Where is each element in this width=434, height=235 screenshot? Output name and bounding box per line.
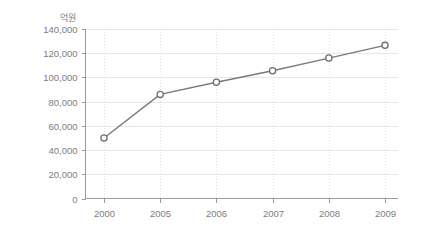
y-tick-label: 100,000 bbox=[43, 72, 77, 83]
data-point-marker bbox=[270, 68, 276, 74]
y-axis-unit-label: 억원 bbox=[60, 12, 76, 23]
x-tick-label: 2000 bbox=[94, 208, 115, 219]
data-point-marker bbox=[213, 79, 219, 85]
x-tick-label: 2006 bbox=[206, 208, 227, 219]
data-point-marker bbox=[326, 55, 332, 61]
y-tick-label: 80,000 bbox=[48, 97, 77, 108]
data-point-marker bbox=[101, 135, 107, 141]
x-tick-label: 2009 bbox=[375, 208, 396, 219]
y-tick-label: 0 bbox=[72, 194, 77, 205]
x-tick-label: 2005 bbox=[150, 208, 171, 219]
y-tick-label: 40,000 bbox=[48, 145, 77, 156]
y-tick-label: 20,000 bbox=[48, 169, 77, 180]
data-point-marker bbox=[157, 91, 163, 97]
y-tick-label: 140,000 bbox=[43, 24, 77, 35]
line-chart: 020,00040,00060,00080,000100,000120,0001… bbox=[0, 0, 434, 235]
y-tick-label: 60,000 bbox=[48, 121, 77, 132]
chart-canvas: 020,00040,00060,00080,000100,000120,0001… bbox=[0, 0, 434, 235]
x-tick-label: 2007 bbox=[263, 208, 284, 219]
y-tick-label: 120,000 bbox=[43, 48, 77, 59]
x-tick-label: 2008 bbox=[319, 208, 340, 219]
data-point-marker bbox=[382, 42, 388, 48]
